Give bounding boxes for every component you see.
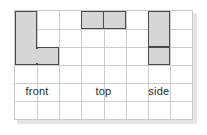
side-view-shape [15,11,192,119]
side-view-shape-part [148,11,170,65]
grid-panel: front top side [14,10,193,120]
figure-canvas: front top side [0,0,207,135]
side-view-shape-divider [148,46,170,48]
label-top: top [81,85,125,98]
label-side: side [148,85,170,98]
label-front: front [15,85,59,98]
